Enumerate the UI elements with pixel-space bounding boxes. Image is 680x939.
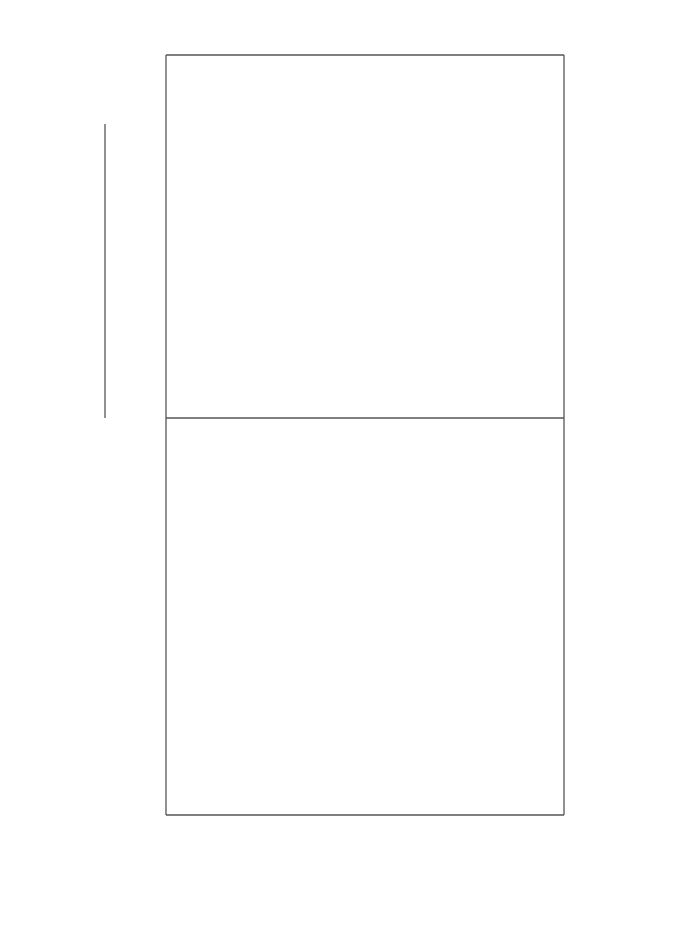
plot-frames [105, 55, 564, 815]
chart-figure [0, 0, 680, 939]
